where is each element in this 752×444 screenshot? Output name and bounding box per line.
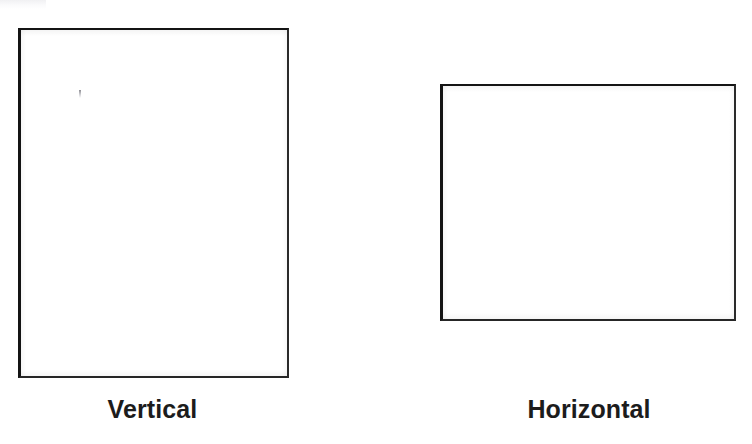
diagram-canvas: Vertical Horizontal bbox=[0, 0, 752, 444]
stray-pen-mark-icon bbox=[79, 90, 81, 98]
portrait-page-outline bbox=[18, 28, 289, 378]
caption-vertical: Vertical bbox=[0, 395, 305, 423]
caption-horizontal: Horizontal bbox=[440, 395, 738, 423]
scan-smudge-artifact bbox=[0, 0, 46, 9]
landscape-page-outline bbox=[440, 84, 736, 321]
